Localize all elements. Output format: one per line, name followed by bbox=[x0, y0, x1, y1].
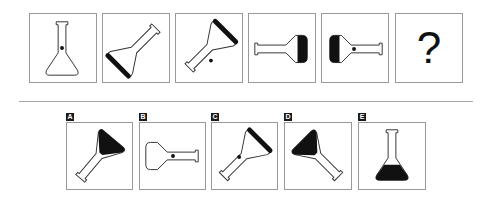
option-label-d: D bbox=[284, 113, 292, 121]
flask-horizontal-filled-icon bbox=[249, 14, 315, 82]
sequence-cell-4 bbox=[248, 13, 316, 83]
option-d[interactable] bbox=[284, 122, 352, 190]
flask-option-a-icon bbox=[67, 123, 132, 189]
option-label-e: E bbox=[358, 113, 366, 121]
flask-option-b-icon bbox=[140, 123, 205, 189]
sequence-cell-3 bbox=[175, 13, 243, 83]
flask-horizontal-filled-dot-icon bbox=[322, 14, 388, 82]
option-b[interactable] bbox=[139, 122, 206, 190]
flask-option-c-icon bbox=[212, 123, 277, 189]
sequence-cell-1 bbox=[29, 13, 97, 83]
option-c[interactable] bbox=[211, 122, 278, 190]
flask-option-d-icon bbox=[285, 123, 351, 189]
divider bbox=[19, 101, 473, 102]
option-label-b: B bbox=[139, 113, 147, 121]
question-mark: ? bbox=[396, 14, 462, 82]
flask-option-e-icon bbox=[359, 123, 425, 189]
sequence-cell-unknown: ? bbox=[395, 13, 463, 83]
flask-upright-icon bbox=[30, 14, 96, 82]
option-label-a: A bbox=[66, 113, 74, 121]
flask-tilted-icon bbox=[103, 14, 169, 82]
option-a[interactable] bbox=[66, 122, 133, 190]
sequence-cell-2 bbox=[102, 13, 170, 83]
flask-tilted-dot-icon bbox=[176, 14, 242, 82]
sequence-cell-5 bbox=[321, 13, 389, 83]
option-e[interactable] bbox=[358, 122, 426, 190]
option-label-c: C bbox=[211, 113, 219, 121]
